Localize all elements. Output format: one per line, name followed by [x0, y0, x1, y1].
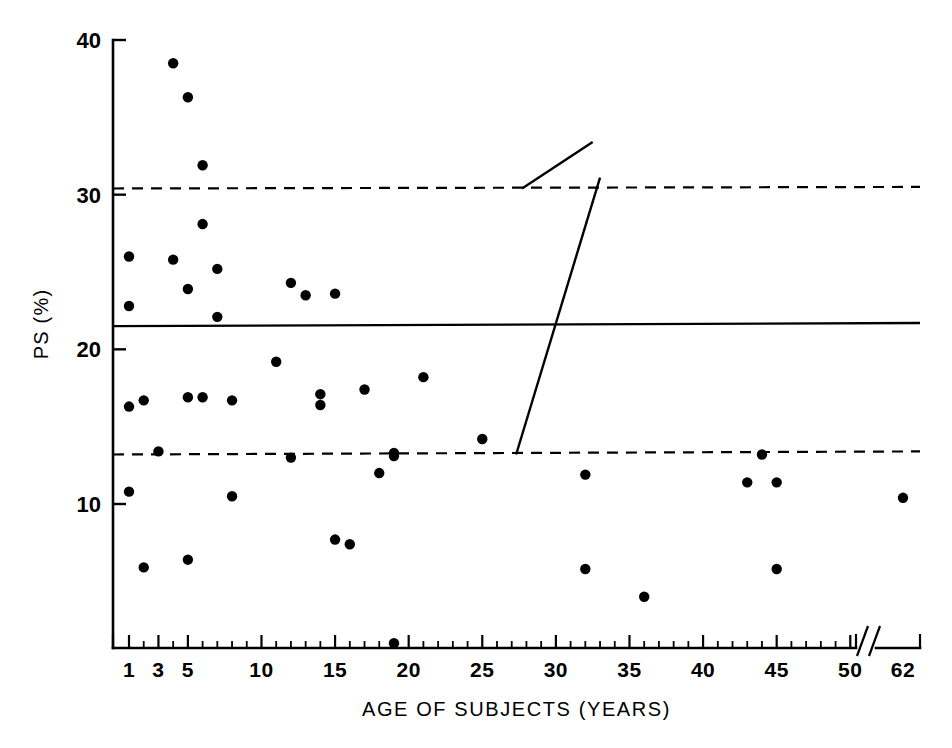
data-point	[477, 434, 487, 444]
x-tick-label: 45	[765, 658, 789, 681]
data-point	[183, 92, 193, 102]
mean-line	[113, 323, 920, 326]
data-point	[124, 401, 134, 411]
data-point	[139, 395, 149, 405]
data-point	[168, 58, 178, 68]
data-point	[124, 251, 134, 261]
x-tick-label: 15	[323, 658, 347, 681]
data-point	[330, 288, 340, 298]
y-tick-label: 10	[77, 492, 101, 517]
x-axis-title: AGE OF SUBJECTS (YEARS)	[362, 698, 671, 720]
data-point	[898, 493, 908, 503]
data-point	[315, 400, 325, 410]
data-point	[389, 638, 399, 648]
y-axis-title: PS (%)	[30, 289, 52, 360]
data-point	[580, 564, 590, 574]
x-tick-label: 50	[838, 658, 862, 681]
x-tick-label: 30	[544, 658, 568, 681]
data-point	[300, 290, 310, 300]
x-tick-label: 3	[152, 658, 164, 681]
reference-lines-group	[113, 187, 920, 455]
x-tick-label: 5	[182, 658, 194, 681]
data-point	[183, 284, 193, 294]
data-point	[771, 477, 781, 487]
axis-labels-group: 1351015202530354045506210203040AGE OF SU…	[30, 28, 915, 720]
annotation-line-upper	[522, 142, 593, 188]
data-point	[124, 301, 134, 311]
y-tick-label: 40	[77, 28, 101, 53]
annotation-lines-group	[516, 142, 600, 454]
data-point	[345, 539, 355, 549]
data-point	[315, 389, 325, 399]
data-point	[227, 491, 237, 501]
x-tick-label: 62	[891, 658, 915, 681]
data-point	[271, 357, 281, 367]
data-point	[212, 312, 222, 322]
data-point	[286, 278, 296, 288]
data-point	[757, 449, 767, 459]
data-point	[742, 477, 752, 487]
x-tick-label: 20	[397, 658, 421, 681]
data-point	[197, 160, 207, 170]
annotation-line-lower	[516, 178, 600, 455]
data-point	[153, 446, 163, 456]
data-point	[330, 534, 340, 544]
y-tick-label: 20	[77, 337, 101, 362]
data-point	[124, 486, 134, 496]
data-point	[639, 592, 649, 602]
data-point	[197, 392, 207, 402]
data-point	[374, 468, 384, 478]
data-point	[212, 264, 222, 274]
data-point	[418, 372, 428, 382]
data-point	[227, 395, 237, 405]
data-point	[168, 254, 178, 264]
x-tick-label: 25	[470, 658, 494, 681]
scatter-plot: 1351015202530354045506210203040AGE OF SU…	[0, 0, 952, 748]
x-tick-label: 1	[123, 658, 135, 681]
axis-break-slash	[869, 626, 880, 656]
figure-canvas: 1351015202530354045506210203040AGE OF SU…	[0, 0, 952, 748]
axis-break-slash	[857, 626, 868, 656]
data-point	[183, 392, 193, 402]
x-tick-label: 40	[691, 658, 715, 681]
data-point	[197, 219, 207, 229]
data-points-group	[124, 58, 908, 648]
upper-sd-line	[113, 187, 920, 189]
data-point	[286, 452, 296, 462]
data-point	[389, 451, 399, 461]
data-point	[359, 384, 369, 394]
data-point	[139, 562, 149, 572]
y-tick-label: 30	[77, 183, 101, 208]
data-point	[771, 564, 781, 574]
x-tick-label: 10	[249, 658, 273, 681]
x-tick-label: 35	[617, 658, 641, 681]
data-point	[580, 469, 590, 479]
data-point	[183, 554, 193, 564]
axes-group	[113, 40, 920, 656]
